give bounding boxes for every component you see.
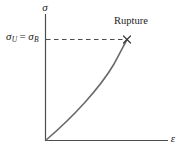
stress-strain-diagram: σ ε σU=σB Rupture	[0, 0, 184, 151]
rupture-x-marker	[124, 36, 131, 43]
rupture-annotation-label: Rupture	[114, 16, 148, 27]
y-axis-label: σ	[42, 2, 47, 13]
equals-sign: =	[17, 30, 28, 42]
sigma-subscript-b: B	[34, 35, 39, 44]
plot-area	[0, 0, 184, 151]
x-axis-label: ε	[171, 133, 175, 144]
ultimate-stress-label: σU=σB	[6, 31, 38, 44]
stress-strain-curve	[46, 40, 128, 141]
sigma-symbol-b: σ	[28, 30, 33, 42]
